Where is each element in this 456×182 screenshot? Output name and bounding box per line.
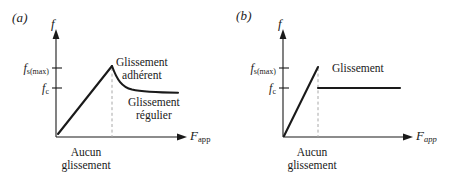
panel-a-annotation-steady-sliding: Glissement régulier — [128, 96, 180, 122]
panel-a-static-rise-curve — [58, 66, 112, 134]
panel-a-tick-label-fsmax: fs(max) — [0, 61, 49, 76]
friction-figure: (a) f Fapp fs(max) — [0, 0, 456, 182]
panel-b-x-axis — [283, 134, 413, 141]
panel-a-x-axis-label: Fapp — [190, 128, 211, 144]
panel-b-y-axis — [280, 29, 287, 137]
panel-a-tick-label-fc: fc — [0, 81, 49, 96]
panel-b-x-axis-label: Fapp — [416, 128, 437, 144]
panel-a-annotation-no-sliding: Aucun glissement — [48, 146, 124, 172]
panel-b-static-rise-line — [284, 67, 318, 136]
panel-a-annotation-stick-slip: Glissement adhérent — [116, 56, 168, 82]
panel-a-y-axis-label: f — [51, 16, 55, 32]
panel-b-annotation-sliding: Glissement — [332, 62, 384, 75]
panel-a: (a) f Fapp fs(max) — [0, 0, 228, 182]
panel-a-x-axis — [56, 134, 187, 141]
panel-a-y-axis — [53, 29, 60, 137]
panel-b-tick-label-fsmax: fs(max) — [228, 61, 276, 76]
panel-b-y-axis-label: f — [278, 16, 282, 32]
panel-b-annotation-no-sliding: Aucun glissement — [274, 146, 350, 172]
panel-b: (b) f Fapp fs(max) — [228, 0, 456, 182]
panel-b-tick-label-fc: fc — [228, 81, 276, 96]
